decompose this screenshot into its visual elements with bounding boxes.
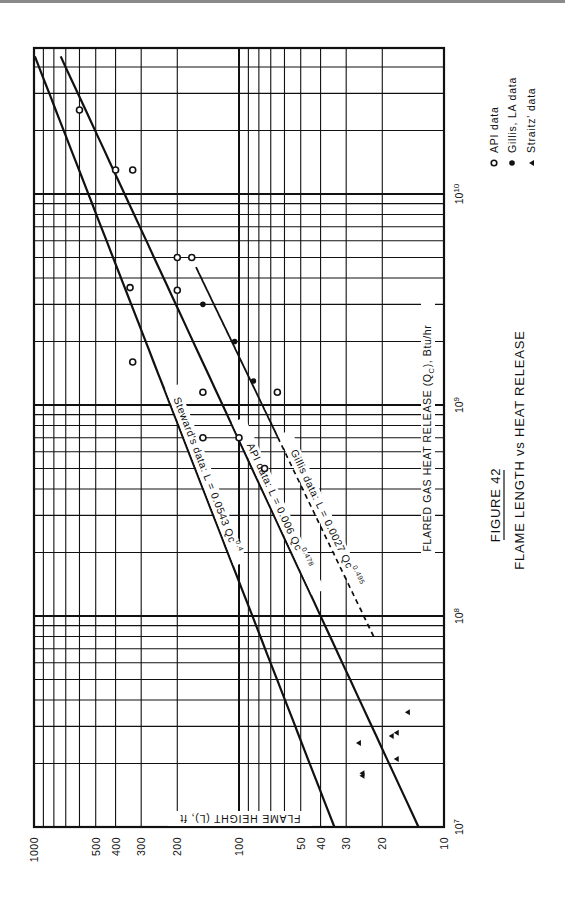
legend-label-gillis: Gillis, LA data: [506, 77, 518, 153]
y-tick-label: 40: [315, 837, 327, 850]
api-data-point: [174, 255, 180, 261]
y-tick-label: 20: [376, 837, 388, 850]
x-tick-label: 1010: [452, 183, 465, 204]
y-tick-label: 30: [340, 837, 352, 850]
gillis-data-point: [200, 302, 206, 308]
legend-item-straitz: Straitz' data: [525, 87, 537, 166]
legend-label-api: API data: [488, 106, 500, 153]
api-data-point: [189, 255, 195, 261]
straitz-data-point: [389, 733, 394, 739]
y-tick-label: 400: [110, 837, 122, 856]
y-tick-label: 200: [171, 837, 183, 856]
gillis-annotation: Gillis data: L = 0.0027 Qc0.495: [278, 429, 375, 607]
flame-length-chart: Steward's data: L = 0.0543 Qc0.4API data…: [0, 0, 565, 916]
y-tick-label: 10: [438, 837, 450, 850]
api-data-point: [113, 167, 119, 173]
filled-circle-icon: [509, 160, 515, 166]
api-data-point: [76, 107, 82, 113]
y-tick-label: 500: [90, 837, 102, 856]
api-data-point: [127, 285, 133, 291]
figure-title-text: FLAME LENGTH vs HEAT RELEASE: [512, 330, 527, 569]
y-axis-tick-labels: 10005004003002001005040302010: [28, 837, 450, 862]
y-tick-label: 300: [135, 837, 147, 856]
api-data-point: [200, 389, 206, 395]
figure-number-text: FIGURE 42: [488, 468, 503, 542]
legend: API data Gillis, LA data Straitz' data: [488, 77, 537, 166]
x-axis-label-main: FLARED GAS HEAT RELEASE (Q: [421, 373, 433, 551]
legend-item-gillis: Gillis, LA data: [506, 77, 518, 166]
x-axis-label-units: ), Btu/hr: [421, 325, 433, 368]
api-data-point: [262, 466, 268, 472]
x-axis-label: FLARED GAS HEAT RELEASE (QC), Btu/hr: [421, 300, 436, 576]
y-tick-label: 50: [295, 837, 307, 850]
x-axis-tick-labels: 1071081091010: [452, 183, 465, 835]
api-data-point: [130, 359, 136, 365]
gillis-fit-line-solid: [196, 267, 278, 438]
x-tick-label: 107: [452, 818, 465, 835]
y-axis-label-text: FLAME HEIGHT (L), ft: [180, 813, 301, 825]
open-circle-icon: [491, 160, 497, 166]
gillis-data-point: [232, 339, 238, 345]
api-data-point: [200, 435, 206, 441]
filled-triangle-icon: [529, 160, 534, 166]
gillis-data-point: [251, 378, 257, 384]
api-data-point: [130, 167, 136, 173]
x-tick-label: 109: [452, 396, 465, 413]
y-tick-label: 100: [233, 837, 245, 856]
fit-lines: [35, 56, 419, 827]
straitz-data-point: [356, 740, 361, 746]
x-tick-label: 108: [452, 607, 465, 624]
figure-number: FIGURE 42: [488, 468, 504, 542]
y-axis-label: FLAME HEIGHT (L), ft: [168, 811, 312, 826]
y-tick-label: 1000: [28, 837, 40, 862]
figure-title: FLAME LENGTH vs HEAT RELEASE: [512, 330, 527, 569]
api-data-point: [274, 389, 280, 395]
steward-annotation: Steward's data: L = 0.0543 Qc0.4: [165, 383, 249, 566]
legend-item-api: API data: [488, 106, 500, 165]
legend-label-straitz: Straitz' data: [525, 87, 537, 153]
api-data-point: [236, 435, 242, 441]
fit-line-annotations: Steward's data: L = 0.0543 Qc0.4API data…: [165, 383, 375, 606]
api-data-point: [174, 287, 180, 293]
straitz-data-point: [394, 756, 399, 762]
straitz-data-point: [394, 730, 399, 736]
straitz-data-point: [405, 709, 410, 715]
svg-text:Steward's data: L = 0.0543 Qc: Steward's data: L = 0.0543 Qc0.4: [171, 394, 244, 554]
